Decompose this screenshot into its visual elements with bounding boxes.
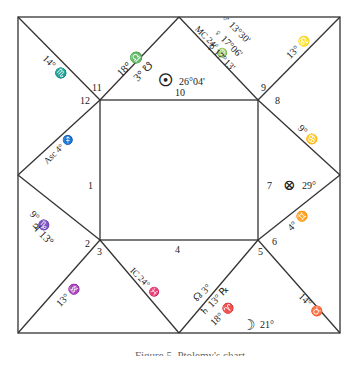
moon-position: 21°	[260, 320, 274, 330]
part-of-fortune-icon: ⊗	[283, 178, 296, 193]
sun-icon: ☉	[158, 72, 173, 89]
house-number-2: 2	[85, 239, 90, 249]
house-number-1: 1	[88, 181, 93, 191]
house-number-10: 10	[175, 88, 185, 98]
house-number-9: 9	[261, 83, 266, 93]
house-number-11: 11	[92, 83, 102, 93]
house-number-6: 6	[272, 237, 277, 247]
house-number-7: 7	[267, 181, 272, 191]
house-number-5: 5	[258, 247, 263, 257]
sun-position: 26°04'	[179, 77, 205, 87]
house-number-4: 4	[175, 245, 180, 255]
moon-icon: ☽	[242, 318, 255, 333]
part-of-fortune-position: 29°	[302, 181, 316, 191]
house-number-8: 8	[275, 96, 280, 106]
house-number-3: 3	[97, 247, 102, 257]
house-number-12: 12	[80, 96, 90, 106]
